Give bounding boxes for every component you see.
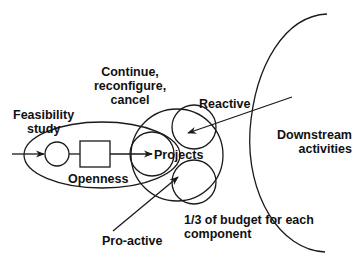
openness-label: Openness [68,172,128,186]
continue-reconfigure-cancel-label: Continue, reconfigure, cancel [75,65,185,107]
downstream-activities-label: Downstream activities [266,128,352,156]
proactive-label: Pro-active [102,234,162,248]
projects-label: Projects [154,148,203,162]
feasibility-circle [45,142,69,166]
reactive-label: Reactive [199,97,250,111]
openness-square [80,141,110,167]
budget-label: 1/3 of budget for each component [184,213,314,241]
feasibility-study-label: Feasibility study [13,108,74,136]
diagram-canvas: Continue, reconfigure, cancel Feasibilit… [0,0,358,259]
